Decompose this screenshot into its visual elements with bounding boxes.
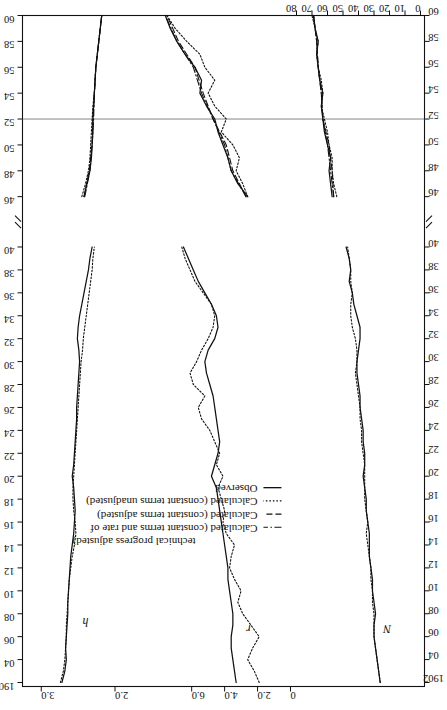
x-tick-label: 46 bbox=[4, 194, 15, 205]
x-tick-label: 18 bbox=[4, 497, 15, 508]
x-tick-label: 54 bbox=[3, 91, 14, 102]
panel-label-N: N bbox=[382, 622, 392, 636]
x-tick-label: 06 bbox=[4, 634, 15, 645]
y-tick-label: 60 bbox=[317, 3, 328, 14]
y-axis-r-left: 6.04.02.00 bbox=[191, 686, 295, 701]
y-tick-label: 2.0 bbox=[115, 690, 128, 701]
plot-area: 1902040608101214161820222426283032343638… bbox=[0, 0, 447, 710]
legend-label: Observed bbox=[214, 483, 257, 495]
x-tick-label: 14 bbox=[427, 535, 438, 546]
legend-label: technical progress adjusted) bbox=[72, 534, 195, 547]
y-tick-label: 30 bbox=[363, 3, 374, 14]
x-tick-label: 38 bbox=[428, 260, 439, 271]
y-tick-label: 70 bbox=[301, 3, 312, 14]
x-tick-label: 12 bbox=[4, 565, 15, 576]
x-tick-label: 28 bbox=[4, 382, 15, 393]
x-tick-label: 54 bbox=[427, 83, 438, 94]
x-tick-label: 04 bbox=[3, 657, 14, 668]
x-tick-label: 60 bbox=[428, 6, 439, 17]
y-axis-h-left: 3.02.0 bbox=[41, 686, 128, 701]
x-tick-label: 04 bbox=[427, 650, 438, 661]
x-tick-label: 36 bbox=[428, 283, 439, 294]
x-axis-bottom: 1902040608101214161820222426283032343638… bbox=[423, 6, 444, 684]
x-tick-label: 34 bbox=[427, 306, 438, 317]
y-tick-label: 80 bbox=[286, 3, 297, 14]
series-line-h-solid bbox=[61, 15, 101, 682]
y-tick-label: 40 bbox=[348, 3, 359, 14]
x-tick-label: 10 bbox=[3, 588, 14, 599]
x-tick-label: 28 bbox=[428, 375, 439, 386]
x-tick-label: 16 bbox=[428, 512, 439, 523]
y-tick-label: 0 bbox=[290, 690, 295, 701]
x-tick-label: 08 bbox=[4, 611, 15, 622]
x-tick-label: 46 bbox=[428, 187, 439, 198]
x-tick-label: 06 bbox=[428, 627, 439, 638]
y-tick-label: 3.0 bbox=[41, 690, 54, 701]
x-tick-label: 22 bbox=[428, 444, 439, 455]
x-tick-label: 10 bbox=[428, 581, 439, 592]
break-slash bbox=[15, 215, 21, 221]
x-tick-label: 08 bbox=[428, 604, 439, 615]
x-tick-label: 1902 bbox=[423, 673, 444, 684]
break-slash bbox=[426, 222, 432, 228]
x-tick-label: 20 bbox=[428, 467, 439, 478]
series-line-r-solid bbox=[165, 15, 247, 682]
x-tick-label: 24 bbox=[3, 428, 14, 439]
legend-label: Calculated (constant terms unadjusted) bbox=[85, 495, 257, 508]
panel-label-r: r bbox=[245, 622, 250, 636]
panel-label-h: h bbox=[82, 615, 88, 629]
series-line-N-dotted bbox=[312, 15, 380, 682]
x-tick-label: 36 bbox=[4, 290, 15, 301]
chart-page: 1902040608101214161820222426283032343638… bbox=[0, 0, 447, 710]
axis-break-mark bbox=[426, 215, 432, 227]
x-tick-label: 20 bbox=[4, 474, 15, 485]
x-tick-label: 34 bbox=[3, 313, 14, 324]
x-tick-label: 26 bbox=[4, 405, 15, 416]
x-tick-label: 38 bbox=[4, 267, 15, 278]
y-tick-label: 10 bbox=[394, 3, 405, 14]
x-tick-label: 18 bbox=[428, 489, 439, 500]
x-tick-label: 58 bbox=[428, 32, 439, 43]
x-tick-label: 12 bbox=[428, 558, 439, 569]
legend-label: Calculated (constant terms and rate of bbox=[90, 521, 257, 534]
legend: ObservedCalculated (constant terms unadj… bbox=[72, 483, 281, 548]
series-line-h-dotted bbox=[60, 15, 101, 682]
break-slash bbox=[15, 222, 21, 228]
x-tick-label: 52 bbox=[4, 117, 15, 128]
x-tick-label: 1902 bbox=[0, 680, 14, 691]
x-tick-label: 60 bbox=[4, 13, 15, 24]
x-tick-label: 48 bbox=[428, 161, 439, 172]
x-tick-label: 52 bbox=[428, 109, 439, 120]
x-tick-label: 56 bbox=[4, 65, 15, 76]
x-tick-label: 30 bbox=[428, 352, 439, 363]
chart-svg: 1902040608101214161820222426283032343638… bbox=[0, 0, 447, 710]
x-tick-label: 30 bbox=[4, 359, 15, 370]
axis-break-mark bbox=[15, 215, 21, 227]
x-tick-label: 40 bbox=[4, 244, 15, 255]
y-axis-N-right: 80706050403020100 bbox=[286, 3, 421, 15]
y-tick-label: 50 bbox=[332, 3, 343, 14]
x-tick-label: 50 bbox=[4, 142, 15, 153]
y-tick-label: 20 bbox=[379, 3, 390, 14]
y-tick-label: 2.0 bbox=[257, 690, 270, 701]
x-tick-label: 26 bbox=[428, 398, 439, 409]
x-tick-label: 50 bbox=[428, 135, 439, 146]
y-tick-label: 0 bbox=[415, 3, 420, 14]
x-tick-label: 14 bbox=[3, 542, 14, 553]
x-axis-top: 1902040608101214161820222426283032343638… bbox=[0, 13, 22, 691]
x-tick-label: 40 bbox=[428, 237, 439, 248]
y-tick-label: 6.0 bbox=[191, 690, 204, 701]
series-line-N-dashdot bbox=[313, 15, 333, 196]
x-tick-label: 24 bbox=[427, 421, 438, 432]
legend-label: Calculated (constant terms adjusted) bbox=[96, 508, 257, 521]
break-slash bbox=[426, 215, 432, 221]
y-tick-label: 4.0 bbox=[224, 690, 237, 701]
x-tick-label: 16 bbox=[4, 520, 15, 531]
x-tick-label: 32 bbox=[428, 329, 439, 340]
x-tick-label: 56 bbox=[428, 58, 439, 69]
x-tick-label: 32 bbox=[4, 336, 15, 347]
x-tick-label: 22 bbox=[4, 451, 15, 462]
x-tick-label: 48 bbox=[4, 168, 15, 179]
x-tick-label: 58 bbox=[4, 39, 15, 50]
rotated-figure: 1902040608101214161820222426283032343638… bbox=[0, 0, 447, 710]
